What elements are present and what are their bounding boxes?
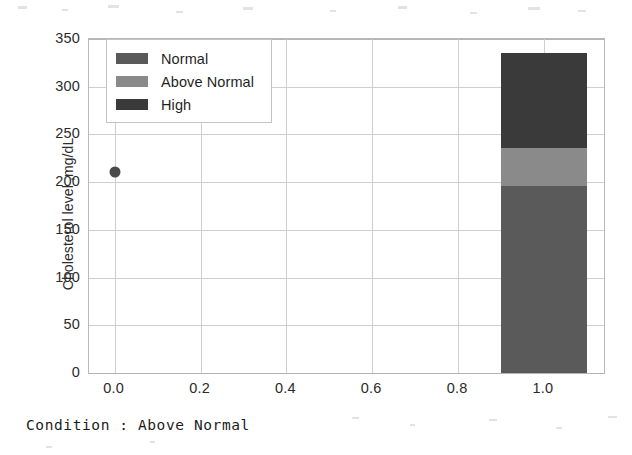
- gridline-vertical: [458, 39, 459, 373]
- y-tick-label: 300: [18, 78, 80, 94]
- condition-caption: Condition : Above Normal: [26, 417, 250, 433]
- bar-segment[interactable]: [501, 53, 587, 147]
- x-tick-label: 0.8: [427, 380, 487, 396]
- x-tick-label: 0.0: [84, 380, 144, 396]
- x-tick-label: 1.0: [513, 380, 573, 396]
- plot-area: NormalAbove NormalHigh: [88, 38, 605, 374]
- bar-segment[interactable]: [501, 148, 587, 186]
- legend-swatch-icon: [116, 76, 148, 87]
- y-tick-label: 50: [18, 316, 80, 332]
- chart-legend: NormalAbove NormalHigh: [106, 39, 272, 123]
- y-tick-label: 100: [18, 269, 80, 285]
- gridline-horizontal: [89, 373, 604, 374]
- gridline-vertical: [286, 39, 287, 373]
- legend-swatch-icon: [116, 53, 148, 64]
- gridline-vertical: [372, 39, 373, 373]
- chart-figure: Cholesterol level ,mg/dL 050100150200250…: [0, 0, 632, 455]
- legend-item[interactable]: High: [116, 93, 262, 116]
- legend-item[interactable]: Above Normal: [116, 70, 262, 93]
- x-tick-label: 0.4: [255, 380, 315, 396]
- legend-swatch-icon: [116, 99, 148, 110]
- legend-item-label: Above Normal: [161, 74, 254, 90]
- y-tick-label: 200: [18, 173, 80, 189]
- legend-item-label: High: [161, 97, 191, 113]
- x-axis-ticks: 0.00.20.40.60.81.0: [88, 380, 605, 402]
- x-tick-label: 0.2: [170, 380, 230, 396]
- data-point-marker[interactable]: [109, 166, 120, 177]
- y-axis-ticks: 050100150200250300350: [18, 38, 80, 374]
- legend-item-label: Normal: [161, 51, 208, 67]
- y-tick-label: 150: [18, 221, 80, 237]
- y-tick-label: 250: [18, 125, 80, 141]
- x-tick-label: 0.6: [341, 380, 401, 396]
- bar-segment[interactable]: [501, 186, 587, 373]
- stacked-bar[interactable]: [501, 53, 587, 373]
- y-tick-label: 350: [18, 30, 80, 46]
- legend-item[interactable]: Normal: [116, 47, 262, 70]
- y-tick-label: 0: [18, 364, 80, 380]
